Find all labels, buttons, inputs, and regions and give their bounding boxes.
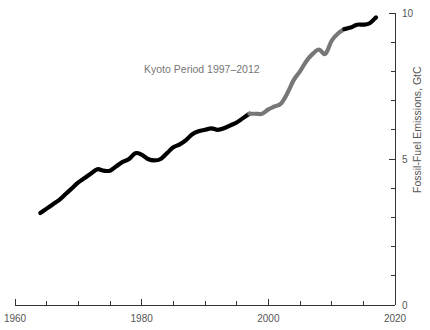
chart-annotations: Kyoto Period 1997–2012 <box>144 63 260 75</box>
chart-canvas: 1960198020002020 0510 Fossil-Fuel Emissi… <box>0 0 430 330</box>
x-axis-tick-labels: 1960198020002020 <box>4 313 407 324</box>
x-tick-label-2000: 2000 <box>257 313 280 324</box>
y-tick-label-5: 5 <box>402 154 408 165</box>
series-line-kyoto-period <box>249 29 344 114</box>
y-axis: 0510 Fossil-Fuel Emissions, GtC <box>389 8 423 311</box>
annotation-kyoto-period: Kyoto Period 1997–2012 <box>144 63 260 75</box>
y-tick-label-10: 10 <box>402 8 414 19</box>
y-axis-title: Fossil-Fuel Emissions, GtC <box>411 66 423 193</box>
y-tick-label-0: 0 <box>402 300 408 311</box>
x-tick-label-1980: 1980 <box>131 313 154 324</box>
series-line-pre-kyoto <box>40 114 249 213</box>
y-axis-major-ticks <box>389 13 395 305</box>
x-tick-label-1960: 1960 <box>4 313 27 324</box>
x-axis-minor-ticks <box>47 301 364 305</box>
data-series-group <box>40 17 376 213</box>
series-line-post-kyoto <box>344 17 376 29</box>
x-axis: 1960198020002020 <box>4 299 407 324</box>
chart-container: 1960198020002020 0510 Fossil-Fuel Emissi… <box>0 0 430 330</box>
x-tick-label-2020: 2020 <box>384 313 407 324</box>
